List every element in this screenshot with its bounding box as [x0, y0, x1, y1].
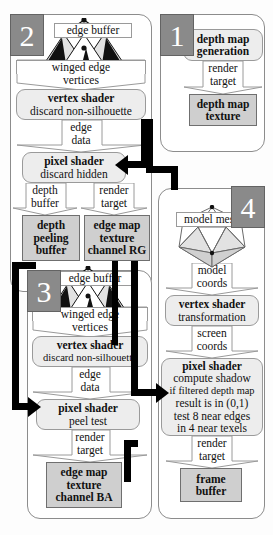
connector-line-1: screen	[165, 327, 259, 340]
stage-4-screen-coords-label: screen coords	[165, 327, 259, 352]
process-title: vertex shader	[33, 339, 147, 352]
stage-3-number: 3	[27, 270, 61, 312]
connector-line-1: model	[165, 264, 259, 277]
connector-line-1: edge	[16, 121, 146, 134]
buffer-line-3: buffer	[23, 244, 79, 257]
stage-2-pixel-shader: pixel shader discard hidden	[22, 152, 126, 183]
stage-3-pixel-shader: pixel shader peel test	[36, 399, 140, 430]
connector-line-2: target	[165, 450, 259, 463]
stage-4-frame-buffer: frame buffer	[180, 468, 242, 502]
stage-2-vertex-shader: vertex shader discard non-silhouette	[16, 89, 146, 120]
stage-2-render-target-label: render target	[80, 184, 148, 209]
process-subtitle: transformation	[166, 311, 258, 324]
stage-3-edge-map-texture-ba: edge map texture channel BA	[46, 462, 122, 508]
buffer-line-3: channel RG	[85, 244, 149, 257]
buffer-line-1: frame	[181, 473, 241, 486]
process-subtitle: generation	[184, 45, 262, 58]
arrowhead-into-stage3-pixel-shader	[28, 397, 41, 417]
connector-line-1: depth	[12, 184, 78, 197]
process-title: pixel shader	[162, 360, 262, 373]
stage-2-edge-buffer-label: edge buffer	[54, 23, 132, 38]
connector-line-2: target	[183, 75, 263, 88]
pixel-shader-line-1: compute shadow	[162, 372, 262, 385]
buffer-line-1: edge map	[47, 466, 121, 479]
connector-line-2: data	[16, 134, 146, 147]
stage-4-pixel-shader: pixel shader compute shadow if filtered …	[161, 358, 263, 436]
connector-line-2: coords	[165, 277, 259, 290]
process-subtitle: discard non-silhouette	[17, 105, 145, 118]
stage-1-render-target-label: render target	[183, 62, 263, 87]
buffer-line-1: depth map	[190, 98, 256, 111]
connector-line-1: render	[165, 437, 259, 450]
connector-line-1: render	[183, 62, 263, 75]
arrow-edgemap-ba-connector	[124, 440, 138, 447]
process-subtitle: peel test	[37, 415, 139, 428]
winged-edge-line-2: vertices	[16, 74, 146, 87]
stage-2-edge-map-texture-rg: edge map texture channel RG	[84, 215, 150, 261]
pixel-shader-line-4: test 8 near edges	[162, 410, 262, 423]
arrow-edgemap-rg-left-vertical	[112, 261, 118, 345]
process-subtitle: discard hidden	[23, 168, 125, 181]
arrowhead-into-stage2-pixel-shader	[115, 155, 128, 175]
buffer-line-2: buffer	[181, 485, 241, 498]
stage-1-depth-map-texture: depth map texture	[189, 94, 257, 126]
pixel-shader-line-2: if filtered depth map	[162, 385, 262, 398]
arrow-depthmap-to-stage4-vertical	[171, 166, 178, 190]
stage-2-winged-edge-caption: winged edge vertices	[16, 60, 146, 86]
connector-line-2: buffer	[12, 197, 78, 210]
buffer-line-2: texture	[190, 110, 256, 123]
stage-4-number: 4	[231, 186, 265, 228]
buffer-line-2: texture	[85, 232, 149, 245]
connector-line-2: coords	[165, 340, 259, 353]
pipeline-diagram: 1 depth map generation render target dep…	[0, 0, 273, 535]
process-title: vertex shader	[166, 298, 258, 311]
arrow-depthmap-left-vertical	[141, 119, 148, 164]
process-subtitle: discard non-silhouette	[33, 352, 147, 365]
process-title: depth map	[184, 33, 262, 46]
buffer-line-1: depth	[23, 219, 79, 232]
stage-4-vertex-shader: vertex shader transformation	[165, 295, 259, 326]
process-title: vertex shader	[17, 92, 145, 105]
stage-4-render-target-label: render target	[165, 437, 259, 462]
stage-2-depth-buffer-label: depth buffer	[12, 184, 78, 209]
stage-2-depth-peeling-buffer: depth peeling buffer	[22, 215, 80, 261]
arrowhead-into-stage4-pixel-shader	[156, 383, 169, 403]
buffer-line-1: edge map	[85, 219, 149, 232]
pixel-shader-line-3: result is in (0,1)	[162, 397, 262, 410]
stage-2-edge-data-label: edge data	[16, 121, 146, 146]
stage-3-edge-buffer-label: edge buffer	[58, 271, 132, 286]
connector-line-1: render	[80, 184, 148, 197]
stage-2-number: 2	[10, 14, 44, 56]
arrow-depthpeeling-vertical	[12, 262, 19, 410]
process-title: pixel shader	[23, 155, 125, 168]
stage-4-model-coords-label: model coords	[165, 264, 259, 289]
arrow-edgemap-rg-right-vertical	[131, 261, 138, 396]
buffer-line-2: peeling	[23, 232, 79, 245]
process-title: pixel shader	[37, 402, 139, 415]
winged-edge-line-1: winged edge	[16, 60, 146, 74]
stage-1-number: 1	[160, 14, 194, 56]
buffer-line-2: texture	[47, 479, 121, 492]
stage-1-depth-map-generation: depth map generation	[183, 29, 263, 61]
connector-line-2: target	[80, 197, 148, 210]
pixel-shader-line-5: in 4 near texels	[162, 422, 262, 435]
buffer-line-3: channel BA	[47, 491, 121, 504]
